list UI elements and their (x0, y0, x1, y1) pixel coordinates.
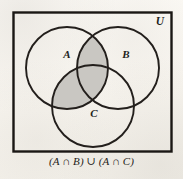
set-label-b: B (121, 48, 129, 60)
set-label-c: C (90, 107, 98, 119)
set-label-a: A (62, 48, 70, 60)
venn-diagram-canvas: A B C U (0, 0, 183, 179)
venn-diagram-figure: A B C U (A ∩ B) ∪ (A ∩ C) (0, 0, 183, 179)
figure-caption: (A ∩ B) ∪ (A ∩ C) (0, 155, 183, 168)
universal-set-label: U (156, 15, 165, 27)
